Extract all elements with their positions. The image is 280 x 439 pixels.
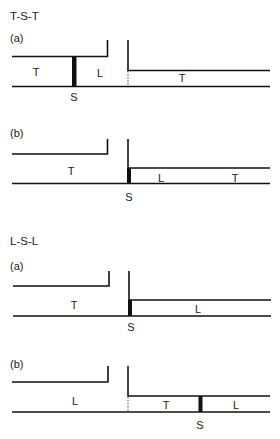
section-l-s-l: L-S-L (a) T L S (b) L T L S	[10, 235, 271, 431]
panel-tst-a: (a) T L T S	[10, 32, 270, 103]
separator-bar	[199, 396, 203, 412]
separator-bar	[128, 300, 132, 316]
separator-label: S	[125, 191, 132, 203]
region-label: L	[195, 303, 201, 315]
separator-label: S	[127, 321, 134, 333]
left-channel-top-wall	[12, 139, 108, 154]
region-label: L	[97, 67, 103, 79]
separator-label: S	[196, 419, 203, 431]
panel-label: (b)	[10, 358, 23, 370]
diagram-canvas: T-S-T (a) T L T S (b) T L T S	[0, 0, 280, 439]
panel-lsl-b: (b) L T L S	[10, 358, 270, 431]
panel-label: (a)	[10, 32, 23, 44]
region-label: T	[71, 299, 78, 311]
left-channel-top-wall	[12, 40, 108, 57]
separator-bar	[72, 57, 77, 87]
section-title: L-S-L	[10, 235, 39, 247]
left-channel-top-wall	[13, 271, 109, 286]
right-channel-top-wall	[128, 40, 270, 71]
region-label: L	[72, 395, 78, 407]
panel-label: (a)	[10, 260, 23, 272]
region-label: T	[33, 66, 40, 78]
right-channel-top-wall	[128, 366, 270, 396]
region-label: T	[232, 172, 239, 184]
separator-bar	[127, 168, 131, 184]
section-t-s-t: T-S-T (a) T L T S (b) T L T S	[10, 10, 270, 203]
left-channel-top-wall	[12, 366, 108, 382]
region-label: L	[233, 399, 239, 411]
panel-tst-b: (b) T L T S	[10, 127, 270, 203]
region-label: L	[158, 172, 164, 184]
panel-label: (b)	[10, 127, 23, 139]
section-title: T-S-T	[10, 10, 39, 22]
panel-lsl-a: (a) T L S	[10, 260, 271, 333]
region-label: T	[68, 165, 75, 177]
region-label: T	[179, 72, 186, 84]
separator-label: S	[70, 91, 77, 103]
region-label: T	[163, 399, 170, 411]
